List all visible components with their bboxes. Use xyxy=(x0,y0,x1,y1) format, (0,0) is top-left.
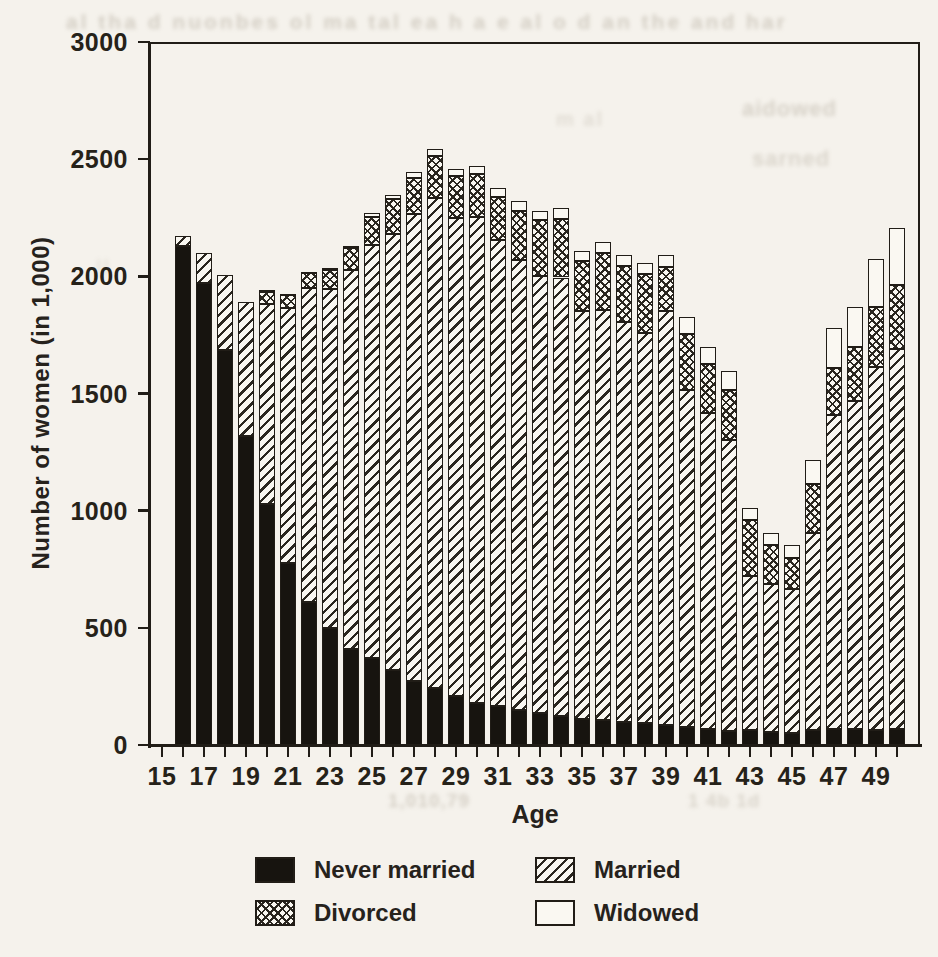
bar-age-24-divorced xyxy=(343,248,359,270)
x-tick-34 xyxy=(560,747,563,757)
bar-age-30-widowed xyxy=(469,166,485,174)
bar-age-17-married xyxy=(196,253,212,283)
y-tick-label-2500: 2500 xyxy=(43,145,128,173)
bar-age-27-never-married xyxy=(406,681,422,745)
bar-age-31-never-married xyxy=(490,706,506,745)
y-tick-2500 xyxy=(138,158,150,161)
bar-age-26-divorced xyxy=(385,199,401,234)
bar-age-36-divorced xyxy=(595,253,611,310)
bar-age-49-widowed xyxy=(868,259,884,307)
bar-age-46-widowed xyxy=(805,460,821,483)
bar-age-43-divorced xyxy=(742,520,758,576)
bar-age-31-divorced xyxy=(490,197,506,240)
bar-age-28-married xyxy=(427,198,443,688)
bar-age-48-never-married xyxy=(847,729,863,745)
x-tick-label-23: 23 xyxy=(308,762,352,790)
bar-age-35-never-married xyxy=(574,719,590,745)
x-tick-21 xyxy=(287,747,290,757)
bar-age-30-married xyxy=(469,217,485,703)
bar-age-21-divorced xyxy=(280,295,296,308)
y-tick-1500 xyxy=(138,392,150,395)
bar-age-41-never-married xyxy=(700,729,716,745)
y-tick-3000 xyxy=(138,41,150,44)
bar-age-48-widowed xyxy=(847,307,863,347)
bar-age-40-never-married xyxy=(679,727,695,745)
x-tick-47 xyxy=(833,747,836,757)
bar-age-32-never-married xyxy=(511,710,527,745)
bar-age-48-married xyxy=(847,401,863,729)
bar-age-23-married xyxy=(322,289,338,628)
x-tick-label-45: 45 xyxy=(770,762,814,790)
legend-patch-married xyxy=(535,857,575,883)
bar-age-29-married xyxy=(448,218,464,696)
bar-age-38-widowed xyxy=(637,263,653,274)
bar-age-40-widowed xyxy=(679,317,695,333)
x-tick-label-39: 39 xyxy=(644,762,688,790)
x-tick-48 xyxy=(854,747,857,757)
bar-age-30-divorced xyxy=(469,174,485,216)
bar-age-46-divorced xyxy=(805,484,821,533)
x-tick-41 xyxy=(707,747,710,757)
bar-age-49-divorced xyxy=(868,307,884,367)
bar-age-34-never-married xyxy=(553,716,569,745)
x-tick-23 xyxy=(329,747,332,757)
bar-age-31-married xyxy=(490,240,506,706)
bar-age-39-divorced xyxy=(658,267,674,312)
bar-age-50-never-married xyxy=(889,729,905,745)
bar-age-25-never-married xyxy=(364,658,380,745)
bar-age-22-married xyxy=(301,288,317,602)
x-tick-44 xyxy=(770,747,773,757)
bar-age-27-divorced xyxy=(406,178,422,214)
legend-patch-divorced xyxy=(255,900,295,926)
bar-age-46-married xyxy=(805,533,821,730)
bar-age-44-married xyxy=(763,584,779,732)
bar-age-37-never-married xyxy=(616,722,632,745)
bar-age-35-married xyxy=(574,311,590,719)
x-tick-22 xyxy=(308,747,311,757)
bar-age-22-never-married xyxy=(301,602,317,745)
y-tick-label-500: 500 xyxy=(43,614,128,642)
x-tick-46 xyxy=(812,747,815,757)
y-tick-500 xyxy=(138,627,150,630)
bar-age-40-divorced xyxy=(679,334,695,390)
bar-age-38-divorced xyxy=(637,274,653,333)
bar-age-43-married xyxy=(742,576,758,729)
x-tick-33 xyxy=(539,747,542,757)
bar-age-24-never-married xyxy=(343,649,359,745)
bar-age-21-married xyxy=(280,308,296,563)
x-tick-label-33: 33 xyxy=(518,762,562,790)
bar-age-42-divorced xyxy=(721,390,737,440)
bar-age-31-widowed xyxy=(490,188,506,196)
y-tick-label-3000: 3000 xyxy=(43,28,128,56)
y-tick-label-0: 0 xyxy=(43,731,128,759)
x-tick-label-25: 25 xyxy=(350,762,394,790)
x-tick-label-37: 37 xyxy=(602,762,646,790)
bar-age-33-divorced xyxy=(532,220,548,276)
bar-age-44-widowed xyxy=(763,533,779,545)
bar-age-30-never-married xyxy=(469,703,485,745)
x-tick-28 xyxy=(434,747,437,757)
bar-age-43-widowed xyxy=(742,508,758,520)
x-tick-26 xyxy=(392,747,395,757)
bar-age-29-never-married xyxy=(448,696,464,745)
bar-age-26-married xyxy=(385,234,401,670)
bar-age-47-married xyxy=(826,415,842,729)
bar-age-16-married xyxy=(175,236,191,245)
bar-age-47-divorced xyxy=(826,368,842,415)
bar-age-23-widowed xyxy=(322,268,338,270)
bar-age-38-married xyxy=(637,333,653,723)
x-tick-37 xyxy=(623,747,626,757)
x-tick-42 xyxy=(728,747,731,757)
bar-age-50-widowed xyxy=(889,228,905,284)
x-tick-27 xyxy=(413,747,416,757)
legend-item-divorced: Divorced xyxy=(255,899,417,927)
bar-age-20-married xyxy=(259,304,275,503)
bar-age-22-divorced xyxy=(301,273,317,288)
bar-age-32-divorced xyxy=(511,211,527,260)
bar-age-21-never-married xyxy=(280,563,296,745)
x-tick-label-41: 41 xyxy=(686,762,730,790)
bar-age-33-never-married xyxy=(532,713,548,745)
x-tick-32 xyxy=(518,747,521,757)
bar-age-18-never-married xyxy=(217,350,233,745)
legend-item-married: Married xyxy=(535,856,681,884)
